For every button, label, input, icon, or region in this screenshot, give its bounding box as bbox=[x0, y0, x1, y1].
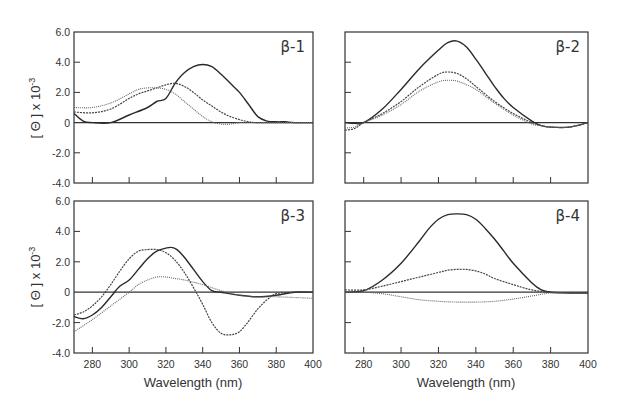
x-tick-label: 400 bbox=[579, 358, 597, 370]
x-tick-label: 280 bbox=[84, 358, 102, 370]
y-axis-title-top: [ Θ ] x 10-3 bbox=[27, 78, 43, 139]
curve-dashed bbox=[345, 72, 588, 130]
x-tick-label: 340 bbox=[467, 358, 485, 370]
x-tick-label: 360 bbox=[504, 358, 522, 370]
y-tick-label: -4.0 bbox=[52, 177, 70, 189]
x-tick-label: 360 bbox=[231, 358, 249, 370]
y-tick-label: 0 bbox=[64, 117, 70, 129]
panel-frame bbox=[74, 201, 313, 353]
curve-dotted bbox=[74, 88, 313, 125]
curve-dotted bbox=[345, 292, 588, 302]
x-axis-title-right: Wavelength (nm) bbox=[417, 375, 516, 390]
panel-1: 6.04.02.00-2.0-4.0β-1 bbox=[52, 26, 313, 189]
panel-label: β-4 bbox=[555, 207, 580, 225]
curve-solid bbox=[345, 214, 588, 293]
x-axis-title-left: Wavelength (nm) bbox=[144, 375, 243, 390]
y-tick-label: -2.0 bbox=[52, 317, 70, 329]
curve-solid bbox=[74, 247, 313, 319]
y-tick-label: 4.0 bbox=[55, 225, 70, 237]
panel-4: 280300320340360380400β-4 bbox=[345, 201, 597, 370]
y-tick-label: -2.0 bbox=[52, 147, 70, 159]
x-tick-label: 280 bbox=[355, 358, 373, 370]
y-tick-label: 2.0 bbox=[55, 86, 70, 98]
panel-frame bbox=[345, 201, 588, 353]
panel-frame bbox=[74, 32, 313, 183]
x-tick-label: 380 bbox=[267, 358, 285, 370]
x-tick-label: 300 bbox=[120, 358, 138, 370]
y-tick-label: 6.0 bbox=[55, 26, 70, 38]
cd-spectra-figure: 6.04.02.00-2.0-4.0β-1β-22803003203403603… bbox=[0, 0, 619, 414]
panel-label: β-2 bbox=[555, 38, 580, 56]
y-tick-label: 4.0 bbox=[55, 56, 70, 68]
curve-solid bbox=[74, 65, 313, 124]
x-tick-label: 380 bbox=[542, 358, 560, 370]
y-axis-title-bottom: [ Θ ] x 10-3 bbox=[27, 247, 43, 308]
x-tick-label: 320 bbox=[430, 358, 448, 370]
x-tick-label: 320 bbox=[157, 358, 175, 370]
x-tick-label: 300 bbox=[392, 358, 410, 370]
x-tick-label: 340 bbox=[194, 358, 212, 370]
curve-dotted bbox=[345, 80, 588, 128]
panel-2: β-2 bbox=[345, 32, 588, 183]
y-tick-label: 2.0 bbox=[55, 256, 70, 268]
panel-label: β-3 bbox=[280, 207, 305, 225]
y-tick-label: 6.0 bbox=[55, 195, 70, 207]
y-tick-label: 0 bbox=[64, 286, 70, 298]
y-tick-label: -4.0 bbox=[52, 347, 70, 359]
x-tick-label: 400 bbox=[304, 358, 322, 370]
panel-3: 2803003203403603804006.04.02.00-2.0-4.0β… bbox=[52, 195, 322, 370]
panel-frame bbox=[345, 32, 588, 183]
panel-label: β-1 bbox=[280, 38, 305, 56]
